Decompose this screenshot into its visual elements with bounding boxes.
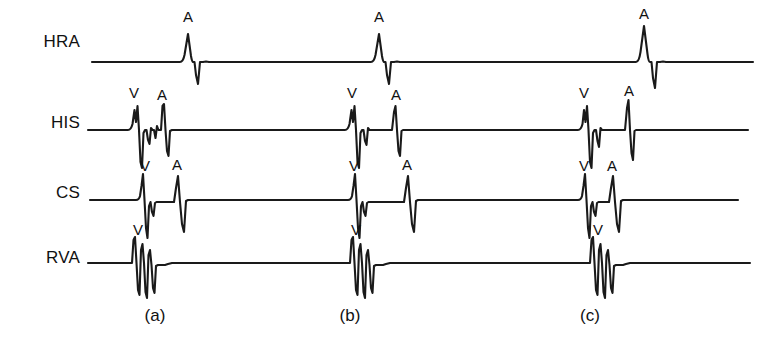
annotation-c-hra-a: A [639, 5, 649, 22]
annotation-b-his-v: V [347, 84, 357, 101]
panel-label-b: (b) [325, 306, 375, 326]
annotation-a-rva-v: V [133, 221, 143, 238]
annotation-a-his-a: A [157, 86, 167, 103]
annotation-b-hra-a: A [374, 8, 384, 25]
annotation-c-cs-v: V [579, 157, 589, 174]
panel-label-c: (c) [565, 306, 615, 326]
annotation-b-cs-a: A [402, 156, 412, 173]
annotation-b-rva-v: V [351, 221, 361, 238]
channel-label-cs: CS [18, 183, 80, 203]
annotation-c-rva-v: V [593, 221, 603, 238]
waveform-trace-cs [90, 174, 738, 238]
panel-label-a: (a) [130, 306, 180, 326]
channel-label-his: HIS [18, 113, 80, 133]
annotation-a-his-v: V [129, 84, 139, 101]
annotation-a-cs-a: A [172, 156, 182, 173]
annotation-c-cs-a: A [607, 157, 617, 174]
waveform-trace-rva [88, 237, 750, 298]
electrogram-figure: HRA HIS CS RVA (a) (b) (c) A V A V A V A… [0, 0, 772, 351]
annotation-b-cs-v: V [349, 157, 359, 174]
annotation-a-hra-a: A [183, 8, 193, 25]
annotation-a-cs-v: V [140, 157, 150, 174]
annotation-c-his-a: A [624, 82, 634, 99]
annotation-c-his-v: V [579, 84, 589, 101]
channel-label-hra: HRA [18, 32, 80, 52]
waveform-trace-his [88, 100, 748, 168]
channel-label-rva: RVA [18, 248, 80, 268]
waveform-trace-hra [92, 26, 753, 88]
annotation-b-his-a: A [391, 86, 401, 103]
waveform-canvas [0, 0, 772, 351]
